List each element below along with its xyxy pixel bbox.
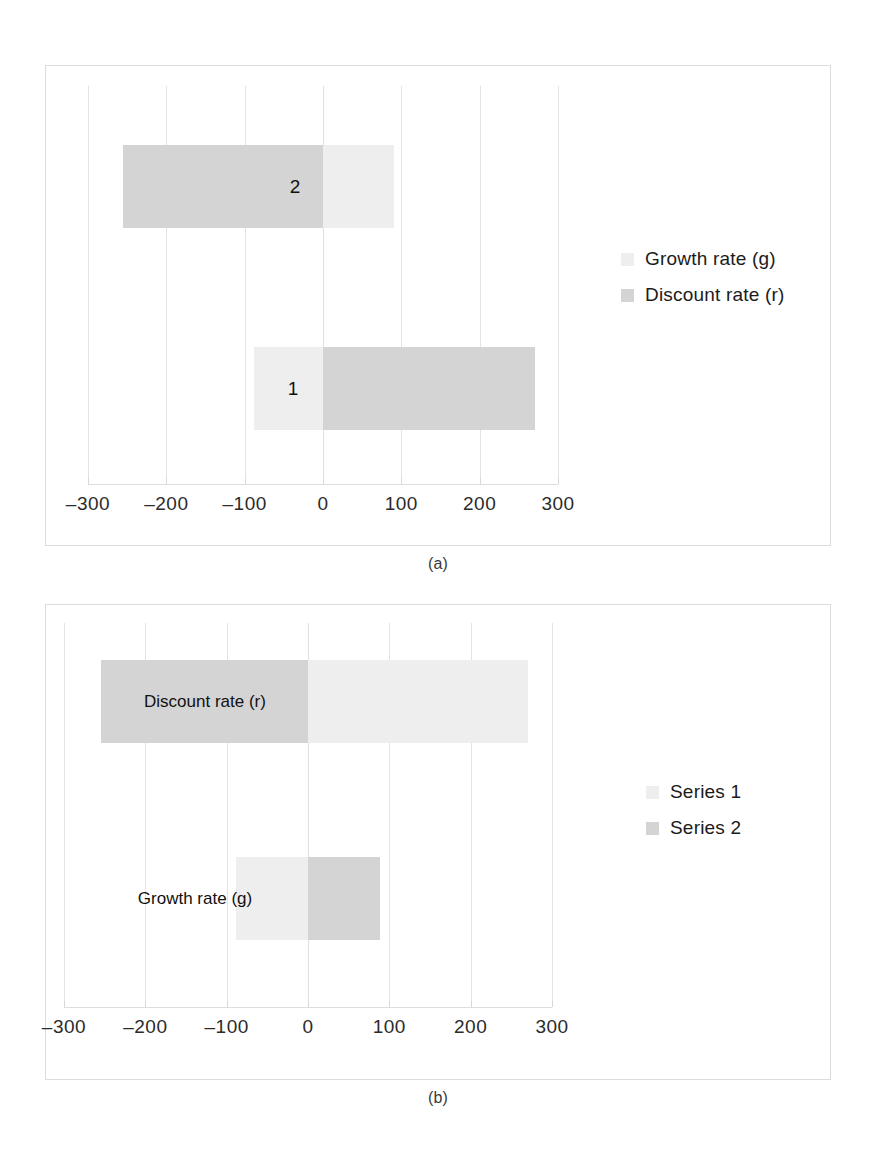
legend-label: Series 1 xyxy=(670,781,741,803)
x-axis-line xyxy=(88,484,558,485)
panel-a-caption: (a) xyxy=(45,555,831,573)
x-tick-label--200: –200 xyxy=(144,493,188,515)
bar-segment xyxy=(308,660,528,743)
x-tick-100 xyxy=(389,1001,390,1007)
plot-area-a: –300–200–100010020030021Growth rate (g)D… xyxy=(46,66,830,545)
legend-swatch-icon xyxy=(621,253,634,266)
bar-row-label: Discount rate (r) xyxy=(144,692,266,712)
panel-b-caption: (b) xyxy=(45,1089,831,1107)
bar-segment xyxy=(323,347,535,430)
x-tick--200 xyxy=(166,478,167,484)
chart-panel-b: –300–200–1000100200300Discount rate (r)G… xyxy=(45,604,831,1080)
x-tick-label-200: 200 xyxy=(463,493,496,515)
legend-label: Growth rate (g) xyxy=(645,248,776,270)
x-tick-label-200: 200 xyxy=(454,1016,487,1038)
legend-item[interactable]: Discount rate (r) xyxy=(621,284,785,306)
x-tick-0 xyxy=(323,478,324,484)
x-tick--200 xyxy=(145,1001,146,1007)
x-tick--300 xyxy=(64,1001,65,1007)
x-axis-line xyxy=(64,1007,552,1008)
bar-row-label: Growth rate (g) xyxy=(138,889,252,909)
x-tick-label--200: –200 xyxy=(123,1016,167,1038)
x-tick--100 xyxy=(227,1001,228,1007)
gridline--300 xyxy=(88,86,89,484)
gridline-300 xyxy=(552,623,553,1007)
gridline--300 xyxy=(64,623,65,1007)
x-tick-label--100: –100 xyxy=(205,1016,249,1038)
gridline-300 xyxy=(558,86,559,484)
x-tick-200 xyxy=(471,1001,472,1007)
x-tick--100 xyxy=(245,478,246,484)
x-tick-100 xyxy=(401,478,402,484)
bar-row-label: 2 xyxy=(290,176,301,198)
x-tick-300 xyxy=(552,1001,553,1007)
x-tick-label-300: 300 xyxy=(541,493,574,515)
legend-swatch-icon xyxy=(646,822,659,835)
legend-item[interactable]: Series 2 xyxy=(646,817,741,839)
legend-swatch-icon xyxy=(646,786,659,799)
legend-item[interactable]: Growth rate (g) xyxy=(621,248,785,270)
x-tick-label--300: –300 xyxy=(42,1016,86,1038)
plot-area-b: –300–200–1000100200300Discount rate (r)G… xyxy=(46,605,830,1079)
bar-row-label: 1 xyxy=(288,378,299,400)
x-tick-label-0: 0 xyxy=(317,493,328,515)
legend-item[interactable]: Series 1 xyxy=(646,781,741,803)
chart-legend: Growth rate (g)Discount rate (r) xyxy=(621,248,785,320)
x-tick-label-0: 0 xyxy=(302,1016,313,1038)
legend-label: Series 2 xyxy=(670,817,741,839)
x-tick--300 xyxy=(88,478,89,484)
x-tick-label--300: –300 xyxy=(66,493,110,515)
legend-label: Discount rate (r) xyxy=(645,284,785,306)
x-tick-label-100: 100 xyxy=(385,493,418,515)
chart-panel-a: –300–200–100010020030021Growth rate (g)D… xyxy=(45,65,831,546)
bar-segment xyxy=(323,145,394,228)
x-tick-label--100: –100 xyxy=(223,493,267,515)
x-tick-0 xyxy=(308,1001,309,1007)
x-tick-300 xyxy=(558,478,559,484)
chart-legend: Series 1Series 2 xyxy=(646,781,741,853)
x-tick-200 xyxy=(480,478,481,484)
x-tick-label-300: 300 xyxy=(535,1016,568,1038)
bar-segment xyxy=(308,857,380,940)
x-tick-label-100: 100 xyxy=(373,1016,406,1038)
legend-swatch-icon xyxy=(621,289,634,302)
